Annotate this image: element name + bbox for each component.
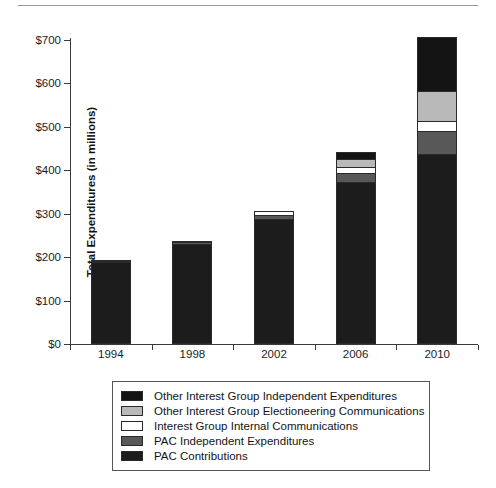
bar-2006[interactable] bbox=[336, 152, 376, 344]
x-tick-label-2002: 2002 bbox=[261, 348, 287, 360]
legend-label: Interest Group Internal Communications bbox=[154, 420, 358, 432]
y-tick-label-300: $300 bbox=[35, 208, 61, 220]
y-tick-label-200: $200 bbox=[35, 251, 61, 263]
legend-swatch-icon bbox=[121, 451, 143, 461]
y-tick-label-600: $600 bbox=[35, 77, 61, 89]
legend-label: PAC Independent Expenditures bbox=[154, 435, 314, 447]
bar-segment bbox=[417, 91, 457, 121]
y-tick-400 bbox=[64, 170, 70, 171]
y-tick-300 bbox=[64, 214, 70, 215]
plot-area: $0$100$200$300$400$500$600$700 199419982… bbox=[70, 38, 478, 345]
chart-legend: Other Interest Group Independent Expendi… bbox=[112, 381, 430, 471]
bar-segment bbox=[91, 262, 131, 344]
y-tick-label-0: $0 bbox=[48, 338, 61, 350]
bar-1994[interactable] bbox=[91, 260, 131, 344]
chart-figure: Total Expenditures (in millions) $0$100$… bbox=[0, 0, 496, 488]
y-axis-line bbox=[70, 38, 71, 345]
title-divider-rule bbox=[18, 5, 478, 6]
bar-segment bbox=[417, 121, 457, 131]
y-tick-label-100: $100 bbox=[35, 295, 61, 307]
x-tick-label-2010: 2010 bbox=[424, 348, 450, 360]
x-tick-label-1994: 1994 bbox=[98, 348, 124, 360]
legend-item[interactable]: Other Interest Group Independent Expendi… bbox=[121, 388, 421, 403]
x-tick-divider-1998 bbox=[233, 345, 234, 350]
bar-segment bbox=[172, 244, 212, 344]
legend-item[interactable]: Interest Group Internal Communications bbox=[121, 418, 421, 433]
bar-segment bbox=[336, 173, 376, 182]
bar-1998[interactable] bbox=[172, 241, 212, 344]
bar-segment bbox=[336, 152, 376, 160]
y-tick-700 bbox=[64, 40, 70, 41]
x-tick-divider-1994 bbox=[152, 345, 153, 350]
y-tick-100 bbox=[64, 301, 70, 302]
x-tick-divider-2006 bbox=[396, 345, 397, 350]
x-tick-label-1998: 1998 bbox=[180, 348, 206, 360]
legend-item[interactable]: PAC Independent Expenditures bbox=[121, 433, 421, 448]
x-tick-label-2006: 2006 bbox=[343, 348, 369, 360]
x-tick-divider-2010 bbox=[478, 345, 479, 350]
x-axis-line bbox=[70, 344, 478, 345]
bar-2010[interactable] bbox=[417, 37, 457, 344]
x-tick-divider-start bbox=[70, 345, 71, 350]
y-tick-label-400: $400 bbox=[35, 164, 61, 176]
legend-swatch-icon bbox=[121, 406, 143, 416]
legend-swatch-icon bbox=[121, 421, 143, 431]
clipped-title bbox=[18, 0, 478, 3]
y-tick-500 bbox=[64, 127, 70, 128]
bar-segment bbox=[254, 219, 294, 344]
bar-segment bbox=[417, 154, 457, 344]
bar-segment bbox=[417, 37, 457, 91]
y-axis-label-container: Total Expenditures (in millions) bbox=[0, 38, 22, 345]
bar-segment bbox=[417, 131, 457, 154]
y-tick-200 bbox=[64, 257, 70, 258]
legend-swatch-icon bbox=[121, 436, 143, 446]
legend-label: PAC Contributions bbox=[154, 450, 248, 462]
bar-segment bbox=[336, 159, 376, 167]
x-tick-divider-2002 bbox=[315, 345, 316, 350]
legend-item[interactable]: PAC Contributions bbox=[121, 448, 421, 463]
bar-2002[interactable] bbox=[254, 211, 294, 344]
legend-swatch-icon bbox=[121, 391, 143, 401]
legend-label: Other Interest Group Independent Expendi… bbox=[154, 390, 397, 402]
legend-item[interactable]: Other Interest Group Electioneering Comm… bbox=[121, 403, 421, 418]
y-tick-label-500: $500 bbox=[35, 121, 61, 133]
bar-segment bbox=[336, 182, 376, 344]
y-tick-600 bbox=[64, 83, 70, 84]
legend-label: Other Interest Group Electioneering Comm… bbox=[154, 405, 424, 417]
y-tick-label-700: $700 bbox=[35, 34, 61, 46]
